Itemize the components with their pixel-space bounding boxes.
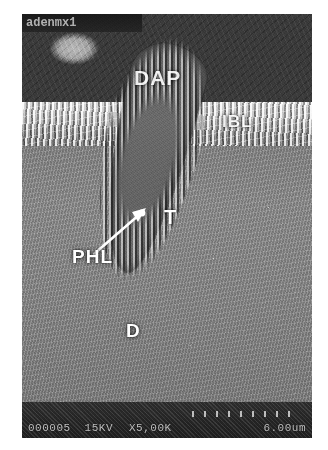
sem-figure: adenmx1 DAP IBL T PHL D 000005 15KV X5,0… — [0, 0, 328, 450]
label-phl: PHL — [72, 246, 113, 268]
sem-scale-length: 6.00um — [263, 422, 306, 434]
label-ibl: IBL — [222, 112, 252, 132]
sem-serial-number: 000005 — [28, 422, 71, 434]
sem-data-bar-row: 000005 15KV X5,00K 6.00um — [22, 422, 312, 434]
sem-magnification: X5,00K — [129, 422, 172, 434]
label-dap: DAP — [134, 66, 181, 90]
label-d: D — [126, 320, 140, 342]
micrograph-plate: adenmx1 DAP IBL T PHL D 000005 15KV X5,0… — [22, 14, 312, 438]
label-t: T — [164, 206, 176, 229]
scale-bar — [192, 411, 300, 417]
sem-accelerating-voltage: 15KV — [85, 422, 113, 434]
header-strip-text: adenmx1 — [26, 16, 76, 30]
sem-data-bar: 000005 15KV X5,00K 6.00um — [22, 402, 312, 438]
header-strip: adenmx1 — [22, 14, 142, 32]
